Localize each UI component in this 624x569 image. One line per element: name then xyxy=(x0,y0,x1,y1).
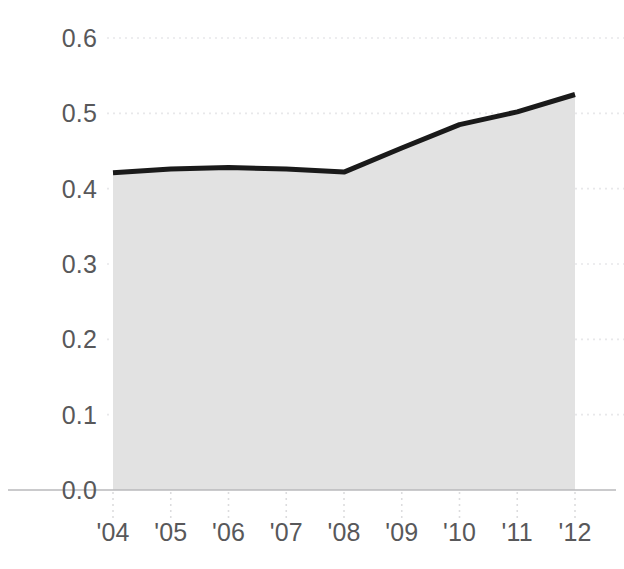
x-tick-label-12: '12 xyxy=(558,520,591,545)
x-tickmark-group xyxy=(113,492,575,518)
area-fill-path xyxy=(113,95,575,491)
x-tick-label-07: '07 xyxy=(270,520,303,545)
x-tick-label-06: '06 xyxy=(212,520,245,545)
y-tick-label-0.6: 0.6 xyxy=(13,26,97,51)
y-tick-label-0.3: 0.3 xyxy=(13,252,97,277)
x-tick-label-10: '10 xyxy=(443,520,476,545)
x-tick-label-04: '04 xyxy=(96,520,129,545)
y-tick-label-0.5: 0.5 xyxy=(13,101,97,126)
x-tick-label-05: '05 xyxy=(154,520,187,545)
y-tick-label-0.4: 0.4 xyxy=(13,176,97,201)
x-tick-label-11: '11 xyxy=(502,520,533,545)
x-tick-label-08: '08 xyxy=(327,520,360,545)
y-tick-label-0.2: 0.2 xyxy=(13,327,97,352)
y-tick-label-0.0: 0.0 xyxy=(13,478,97,503)
y-tick-label-0.1: 0.1 xyxy=(13,402,97,427)
chart-container: 0.00.10.20.30.40.50.6 '04'05'06'07'08'09… xyxy=(0,0,624,569)
x-tick-label-09: '09 xyxy=(385,520,418,545)
